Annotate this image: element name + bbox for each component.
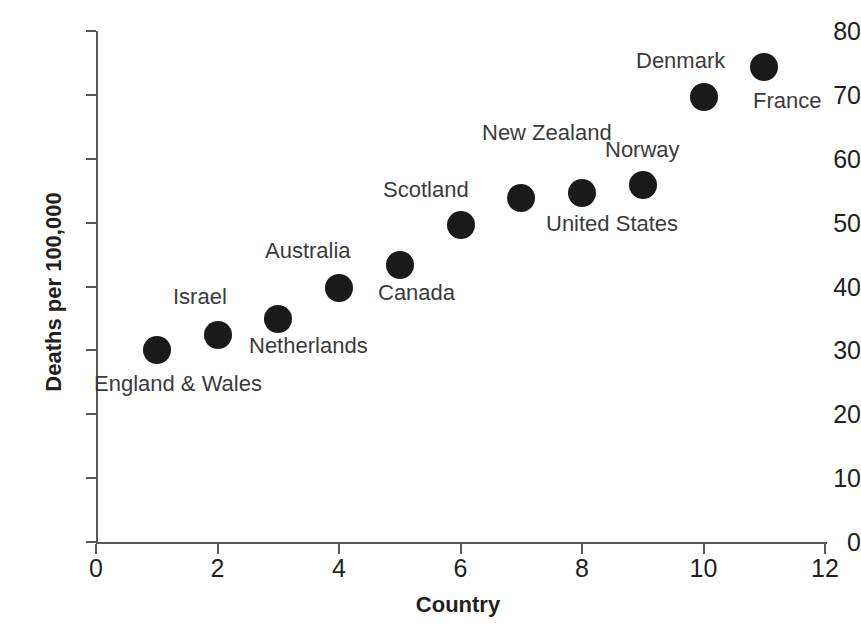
point-label: France <box>753 89 821 113</box>
x-axis-title: Country <box>358 592 558 618</box>
data-point[interactable] <box>750 53 778 81</box>
x-tick <box>460 544 462 554</box>
data-point[interactable] <box>629 171 657 199</box>
y-tick <box>86 222 96 224</box>
data-point[interactable] <box>264 305 292 333</box>
y-tick <box>86 158 96 160</box>
y-tick-label: 10 <box>813 464 861 493</box>
data-point[interactable] <box>447 211 475 239</box>
point-label: New Zealand <box>482 121 612 145</box>
point-label: United States <box>546 212 678 236</box>
x-tick-label: 8 <box>575 554 589 583</box>
y-axis-title: Deaths per 100,000 <box>41 142 67 442</box>
data-point[interactable] <box>325 274 353 302</box>
x-tick <box>95 544 97 554</box>
point-label: Netherlands <box>249 334 368 358</box>
data-point[interactable] <box>507 184 535 212</box>
x-tick <box>338 544 340 554</box>
scatter-chart: 01020304050607080 024681012 Deaths per 1… <box>0 0 861 631</box>
point-label: Australia <box>265 239 351 263</box>
y-tick-label: 60 <box>813 144 861 173</box>
data-point[interactable] <box>690 83 718 111</box>
point-label: Scotland <box>383 178 469 202</box>
point-label: Denmark <box>636 49 725 73</box>
y-tick <box>86 477 96 479</box>
x-tick-label: 6 <box>454 554 468 583</box>
y-tick <box>86 286 96 288</box>
point-label: Israel <box>173 285 227 309</box>
y-tick-label: 0 <box>813 528 861 557</box>
x-tick <box>824 544 826 554</box>
x-tick <box>217 544 219 554</box>
data-point[interactable] <box>204 321 232 349</box>
y-tick-label: 40 <box>813 272 861 301</box>
y-tick <box>86 94 96 96</box>
y-tick-label: 80 <box>813 17 861 46</box>
y-tick <box>86 541 96 543</box>
x-tick <box>581 544 583 554</box>
point-label: Canada <box>378 281 455 305</box>
point-label: Norway <box>605 138 680 162</box>
data-point[interactable] <box>568 179 596 207</box>
y-tick-label: 30 <box>813 336 861 365</box>
y-axis-line <box>96 31 98 544</box>
x-tick-label: 2 <box>211 554 225 583</box>
data-point[interactable] <box>386 251 414 279</box>
y-tick-label: 50 <box>813 208 861 237</box>
x-axis-line <box>96 542 827 544</box>
y-tick <box>86 349 96 351</box>
data-point[interactable] <box>143 336 171 364</box>
x-tick-label: 0 <box>89 554 103 583</box>
point-label: England & Wales <box>94 372 262 396</box>
x-tick-label: 4 <box>332 554 346 583</box>
x-tick-label: 10 <box>690 554 718 583</box>
x-tick-label: 12 <box>811 554 839 583</box>
y-tick-label: 20 <box>813 400 861 429</box>
y-tick <box>86 30 96 32</box>
x-tick <box>703 544 705 554</box>
y-tick <box>86 413 96 415</box>
